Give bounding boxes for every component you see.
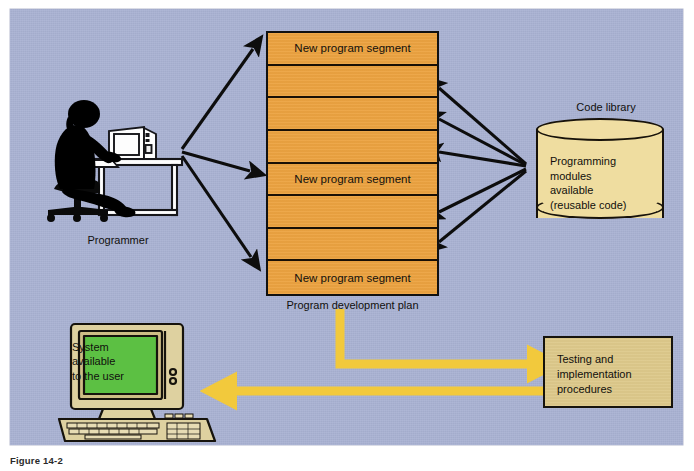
testing-line: procedures — [557, 382, 669, 397]
plan-segment — [268, 196, 437, 229]
plan-caption: Program development plan — [266, 299, 439, 311]
code-library-text: Programming modules available (reusable … — [550, 154, 654, 212]
figure-caption: Figure 14-2 — [10, 455, 310, 466]
user-screen-text: System available to the user — [72, 340, 162, 383]
screen-line: to the user — [72, 369, 162, 383]
plan-segment — [268, 131, 437, 164]
plan-segment — [268, 229, 437, 262]
code-library-cylinder: Programming modules available (reusable … — [536, 118, 664, 229]
diagram-panel: Programmer New program segment New progr… — [10, 9, 683, 445]
testing-implementation-box: Testing and implementation procedures — [543, 336, 673, 408]
library-line: Programming — [550, 154, 654, 169]
program-development-plan: New program segment New program segment … — [266, 31, 439, 296]
plan-segment: New program segment — [268, 33, 437, 66]
plan-segment — [268, 98, 437, 131]
testing-text: Testing and implementation procedures — [557, 352, 669, 397]
figure-root: Programmer New program segment New progr… — [0, 0, 694, 471]
plan-segment-label: New program segment — [294, 41, 410, 55]
library-line: available — [550, 183, 654, 198]
cylinder-top-ellipse — [536, 118, 664, 141]
plan-segment-label: New program segment — [294, 271, 410, 285]
screen-line: available — [72, 354, 162, 368]
testing-line: implementation — [557, 367, 669, 382]
screen-line: System — [72, 340, 162, 354]
programmer-label: Programmer — [38, 234, 198, 246]
plan-segment: New program segment — [268, 164, 437, 197]
arrow-plan-to-testing — [340, 309, 532, 364]
plan-segment-label: New program segment — [294, 172, 410, 186]
plan-segment: New program segment — [268, 261, 437, 294]
library-line: modules — [550, 169, 654, 184]
code-library-label: Code library — [538, 101, 674, 113]
programmer-icon — [38, 97, 198, 227]
plan-segment — [268, 66, 437, 99]
testing-line: Testing and — [557, 352, 669, 367]
library-line: (reusable code) — [550, 198, 654, 213]
